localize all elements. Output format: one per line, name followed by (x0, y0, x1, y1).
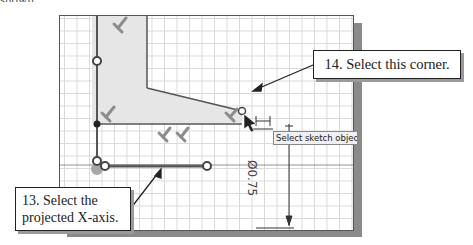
endpoint-y-top[interactable] (93, 57, 101, 65)
callout-step-14: 14. Select this corner. (313, 50, 461, 79)
corner-point-selected[interactable] (239, 108, 246, 115)
endpoint-x-left[interactable] (101, 162, 109, 170)
caption-fragment: shown. (0, 0, 40, 2)
endpoint-y-bottom[interactable] (93, 157, 101, 165)
corner-point-bottom-left[interactable] (94, 121, 101, 128)
constraint-icon-mid-2[interactable] (177, 128, 188, 141)
endpoint-x-right[interactable] (203, 162, 211, 170)
callout-step-14-text: 14. Select this corner. (324, 56, 449, 72)
constraint-icon-mid-1[interactable] (159, 128, 170, 141)
tooltip: Select sketch objects (273, 131, 358, 145)
diameter-dimension-label[interactable]: Ø0.75 (245, 160, 259, 196)
callout-step-13-line1: 13. Select the (22, 192, 130, 209)
callout-step-13-line2: projected X-axis. (22, 209, 130, 226)
callout-step-13: 13. Select the projected X-axis. (15, 187, 131, 231)
